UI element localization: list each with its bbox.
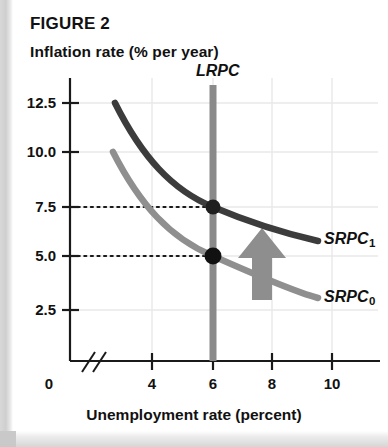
equilibrium-point-lower — [205, 248, 222, 265]
x-tick-label-4: 4 — [132, 375, 172, 392]
grid-lines — [70, 78, 378, 360]
lrpc-label: LRPC — [196, 62, 240, 80]
y-tick-label-7.5: 7.5 — [4, 198, 56, 215]
page-edge-shadow-bottom — [0, 431, 388, 447]
srpc0-label-text: SRPC — [324, 288, 368, 305]
y-tick-label-10.0: 10.0 — [4, 143, 56, 160]
figure-card: FIGURE 2 Inflation rate (% per year) — [0, 0, 388, 447]
equilibrium-point-upper — [206, 200, 221, 215]
srpc0-label: SRPC0 — [324, 288, 375, 306]
y-tick-label-5.0: 5.0 — [4, 247, 56, 264]
y-tick-label-2.5: 2.5 — [4, 301, 56, 318]
x-tick-label-6: 6 — [193, 375, 233, 392]
axis-lines — [70, 78, 380, 361]
page-edge-corner — [0, 431, 16, 447]
shift-up-arrow — [238, 228, 286, 300]
srpc0-label-subscript: 0 — [369, 295, 375, 307]
srpc1-label-subscript: 1 — [369, 237, 375, 249]
dotted-guide-lines — [71, 207, 211, 256]
x-tick-label-0: 0 — [29, 375, 69, 392]
srpc1-label: SRPC1 — [324, 230, 375, 248]
x-tick-label-10: 10 — [312, 375, 352, 392]
x-tick-label-8: 8 — [252, 375, 292, 392]
y-tick-label-12.5: 12.5 — [4, 94, 56, 111]
x-axis-title: Unemployment rate (percent) — [0, 406, 388, 424]
srpc1-label-text: SRPC — [324, 230, 368, 247]
